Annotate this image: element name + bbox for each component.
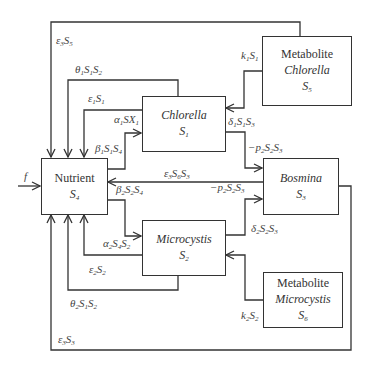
bosmina-title: Bosmina: [280, 170, 322, 186]
metabolite-microcystis-symbol: S6: [298, 307, 308, 324]
microcystis-box: Microcystis S2: [142, 220, 226, 276]
metabolite-microcystis-box: Metabolite Microcystis S6: [263, 272, 343, 328]
label-eps3-s6-s3: ε3S6S3: [164, 167, 190, 181]
chlorella-symbol: S1: [179, 123, 189, 140]
label-eps1-s1: ε1S1: [88, 92, 105, 106]
metabolite-chlorella-box: Metabolite Chlorella S5: [262, 36, 352, 106]
metabolite-chlorella-line2: Chlorella: [284, 62, 330, 78]
nutrient-symbol: S4: [70, 186, 80, 203]
label-f: f: [24, 170, 27, 182]
metabolite-microcystis-line1: Metabolite: [277, 275, 329, 291]
nutrient-box: Nutrient S4: [41, 158, 108, 215]
label-p2-mid: −p2S2S3: [210, 181, 244, 195]
metabolite-chlorella-symbol: S5: [302, 78, 312, 95]
label-eps2-s2: ε2S2: [89, 263, 106, 277]
bosmina-box: Bosmina S3: [263, 158, 339, 215]
bosmina-symbol: S3: [296, 186, 306, 203]
label-k1-s1: k1S1: [241, 49, 258, 63]
label-eps3-s3: ε3S3: [58, 333, 75, 347]
label-theta1: θ1S1S2: [75, 63, 102, 77]
chlorella-title: Chlorella: [161, 107, 207, 123]
label-p2-top: −p2S2S3: [248, 141, 282, 155]
microcystis-symbol: S2: [179, 247, 189, 264]
label-delta2: δ2S2S3: [251, 222, 278, 236]
label-beta1: β1S1S4: [95, 142, 122, 156]
nutrient-title: Nutrient: [55, 170, 95, 186]
label-delta1: δ1S1S3: [228, 115, 255, 129]
label-k2-s2: k2S2: [241, 309, 258, 323]
label-eps3-s5: ε3S5: [56, 34, 73, 48]
metabolite-chlorella-line1: Metabolite: [281, 46, 333, 62]
label-theta2: θ2S1S2: [70, 297, 97, 311]
microcystis-title: Microcystis: [156, 231, 212, 247]
label-alpha1: α1SX1: [114, 113, 139, 127]
label-alpha2: α2S4S2: [103, 237, 130, 251]
label-beta2: β2S2S4: [116, 183, 143, 197]
metabolite-microcystis-line2: Microcystis: [275, 291, 331, 307]
chlorella-box: Chlorella S1: [142, 96, 226, 152]
